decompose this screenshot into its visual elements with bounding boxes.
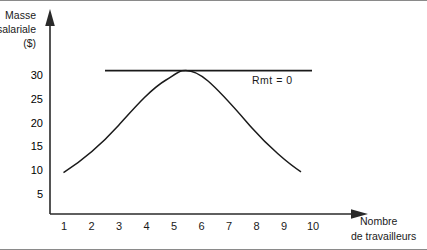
x-axis-title-line-1: Nombre — [360, 215, 398, 227]
xtick-label-2: 2 — [88, 220, 94, 232]
xtick-label-5: 5 — [171, 220, 177, 232]
xtick-label-10: 10 — [307, 220, 319, 232]
y-axis-title-line-2: salariale — [0, 23, 36, 35]
ytick-label-25: 25 — [31, 93, 43, 105]
ytick-label-30: 30 — [31, 69, 43, 81]
xtick-label-8: 8 — [253, 220, 259, 232]
annotation-label-rmt-zero: Rmt = 0 — [252, 74, 293, 86]
y-axis-title-line-3: ($) — [23, 37, 36, 49]
ytick-label-15: 15 — [31, 140, 43, 152]
ytick-label-5: 5 — [37, 188, 43, 200]
ytick-label-10: 10 — [31, 164, 43, 176]
xtick-label-9: 9 — [281, 220, 287, 232]
ytick-label-20: 20 — [31, 117, 43, 129]
chart-figure: 30 25 20 15 10 5 1 2 3 4 5 6 7 8 9 10 Ma… — [0, 0, 427, 250]
chart-canvas: 30 25 20 15 10 5 1 2 3 4 5 6 7 8 9 10 Ma… — [0, 1, 427, 250]
xtick-label-6: 6 — [198, 220, 204, 232]
xtick-label-1: 1 — [61, 220, 67, 232]
y-axis-arrow-icon — [45, 9, 55, 26]
y-axis-title-line-1: Masse — [5, 9, 36, 21]
xtick-label-3: 3 — [116, 220, 122, 232]
xtick-label-4: 4 — [143, 220, 149, 232]
xtick-label-7: 7 — [226, 220, 232, 232]
x-axis-title-line-2: de travailleurs — [351, 230, 416, 242]
